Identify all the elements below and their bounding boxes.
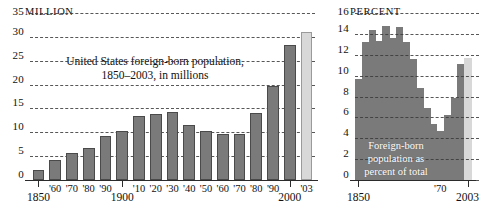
ytick-millions-0: 0 xyxy=(0,169,24,180)
right-caption-line2: population as xyxy=(344,152,448,165)
ytick-millions-20: 20 xyxy=(0,74,24,85)
gridline-percent xyxy=(355,117,479,118)
ytick-millions-35: 35 xyxy=(0,6,24,17)
ytick-percent-14: 14 xyxy=(330,23,349,34)
xtick-major-1850 xyxy=(38,180,39,187)
bar-millions-90 xyxy=(267,86,279,180)
ytick-percent-4: 4 xyxy=(330,127,349,138)
xlabel-03: '03 xyxy=(296,183,318,194)
chart-panel-percent: PERCENT Foreign-born population as perce… xyxy=(330,0,479,214)
bar-millions-10 xyxy=(133,116,145,180)
ytick-percent-10: 10 xyxy=(330,65,349,76)
gridline-percent xyxy=(355,34,479,35)
chart-panel-millions: MILLION United States foreign-born popul… xyxy=(0,0,320,214)
bar-millions-40 xyxy=(183,125,195,180)
gridline-millions xyxy=(30,37,315,38)
right-caption-line3: percent of total xyxy=(344,165,448,178)
left-plot-area xyxy=(30,13,315,180)
left-x-axis xyxy=(25,180,318,181)
xtick-major-2000 xyxy=(290,180,291,187)
ytick-percent-12: 12 xyxy=(330,44,349,55)
bar-millions-70 xyxy=(234,134,246,180)
gridline-percent xyxy=(355,13,479,14)
bar-millions-60 xyxy=(217,134,229,180)
ytick-millions-10: 10 xyxy=(0,121,24,132)
xlabel-percent-2003: 2003 xyxy=(446,192,484,203)
ytick-percent-8: 8 xyxy=(330,86,349,97)
bar-millions-2000 xyxy=(284,45,296,181)
gridline-millions xyxy=(30,61,315,62)
ytick-millions-25: 25 xyxy=(0,50,24,61)
ytick-millions-15: 15 xyxy=(0,97,24,108)
xtick-percent-1850 xyxy=(358,180,359,187)
gridline-percent xyxy=(355,55,479,56)
gridline-percent xyxy=(355,97,479,98)
gridline-millions xyxy=(30,13,315,14)
bar-millions-30 xyxy=(167,112,179,180)
xtick-percent-2003 xyxy=(468,180,469,187)
ytick-percent-6: 6 xyxy=(330,106,349,117)
bar-millions-1850 xyxy=(33,170,45,180)
right-caption-line1: Foreign-born xyxy=(344,139,448,152)
bar-millions-80 xyxy=(250,113,262,180)
bar-millions-1900 xyxy=(116,131,128,180)
ytick-percent-16: 16 xyxy=(330,6,349,17)
bar-millions-50 xyxy=(200,131,212,180)
ytick-millions-5: 5 xyxy=(0,145,24,156)
xtick-major-1900 xyxy=(122,180,123,187)
ytick-millions-30: 30 xyxy=(0,26,24,37)
bar-millions-20 xyxy=(150,114,162,180)
bar-millions-60 xyxy=(49,160,61,180)
bar-millions-90 xyxy=(100,136,112,180)
bar-millions-03 xyxy=(301,32,313,180)
right-x-axis xyxy=(350,180,476,181)
gridline-percent xyxy=(355,76,479,77)
xlabel-percent-1850: 1850 xyxy=(336,192,380,203)
bar-millions-80 xyxy=(83,148,95,180)
bar-millions-70 xyxy=(66,153,78,180)
